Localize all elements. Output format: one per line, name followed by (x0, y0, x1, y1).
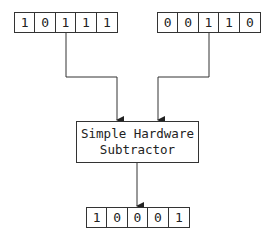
input-register-a: 1 0 1 1 1 (14, 12, 118, 33)
bit-cell: 0 (128, 208, 148, 227)
bit-cell: 1 (199, 13, 219, 32)
output-register: 1 0 0 0 1 (86, 207, 190, 228)
bit-cell: 0 (158, 13, 178, 32)
bit-cell: 0 (35, 13, 55, 32)
block-label-line1: Simple Hardware (81, 126, 194, 142)
bit-cell: 1 (97, 13, 117, 32)
bit-cell: 1 (219, 13, 239, 32)
block-label-line2: Subtractor (100, 142, 175, 158)
bit-cell: 0 (107, 208, 127, 227)
bit-cell: 0 (148, 208, 168, 227)
bit-cell: 1 (169, 208, 189, 227)
bit-cell: 1 (15, 13, 35, 32)
bit-cell: 1 (56, 13, 76, 32)
bit-cell: 1 (87, 208, 107, 227)
bit-cell: 1 (76, 13, 96, 32)
bit-cell: 0 (240, 13, 260, 32)
input-register-b: 0 0 1 1 0 (157, 12, 261, 33)
wire-a (66, 33, 117, 120)
wire-b (158, 33, 209, 120)
subtractor-block: Simple Hardware Subtractor (76, 121, 199, 163)
bit-cell: 0 (178, 13, 198, 32)
